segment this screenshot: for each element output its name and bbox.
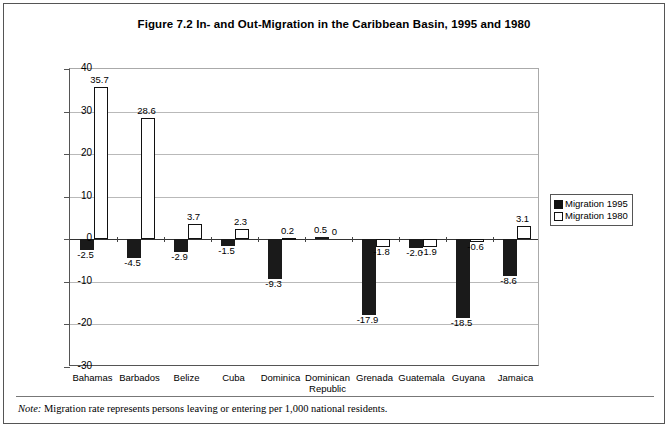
bar-dominican-republic-1995 bbox=[315, 237, 329, 239]
y-axis-label: 40 bbox=[58, 63, 92, 73]
legend-item-migration-1980: Migration 1980 bbox=[554, 210, 628, 222]
bar-value-label: -1.8 bbox=[366, 247, 398, 257]
bar-value-label: -0.6 bbox=[460, 242, 492, 252]
note-label: Note: bbox=[18, 403, 41, 414]
bar-barbados-1980 bbox=[141, 118, 155, 240]
figure-title: Figure 7.2 In- and Out-Migration in the … bbox=[4, 18, 664, 30]
x-axis-tick bbox=[446, 237, 447, 242]
figure-frame: Figure 7.2 In- and Out-Migration in the … bbox=[3, 3, 665, 424]
figure-note: Note: Migration rate represents persons … bbox=[18, 403, 387, 414]
legend-item-migration-1995: Migration 1995 bbox=[554, 198, 628, 210]
bar-value-label: -1.5 bbox=[211, 246, 243, 256]
x-axis-tick bbox=[117, 237, 118, 242]
bar-value-label: 35.7 bbox=[84, 75, 116, 85]
y-axis-label: 20 bbox=[58, 148, 92, 158]
x-axis-category-jamaica: Jamaica bbox=[486, 372, 545, 383]
bar-value-label: 0 bbox=[319, 227, 351, 237]
x-axis-tick bbox=[305, 237, 306, 242]
legend-label: Migration 1995 bbox=[565, 199, 628, 209]
y-axis-label: -10 bbox=[58, 276, 92, 286]
bar-value-label: -2.9 bbox=[164, 252, 196, 262]
bar-value-label: -2.5 bbox=[70, 250, 102, 260]
legend-label: Migration 1980 bbox=[565, 211, 628, 221]
bar-value-label: -8.6 bbox=[493, 276, 525, 286]
bar-barbados-1995 bbox=[127, 239, 141, 258]
bar-cuba-1980 bbox=[235, 229, 249, 239]
x-axis-tick bbox=[211, 237, 212, 242]
bar-value-label: -18.5 bbox=[446, 318, 478, 328]
bar-dominica-1980 bbox=[282, 238, 296, 240]
note-text: Migration rate represents persons leavin… bbox=[41, 403, 387, 414]
bar-value-label: -17.9 bbox=[352, 315, 384, 325]
bar-value-label: 3.7 bbox=[178, 212, 210, 222]
bar-belize-1995 bbox=[174, 239, 188, 251]
bar-jamaica-1995 bbox=[503, 239, 517, 276]
y-axis-label: -20 bbox=[58, 318, 92, 328]
bar-value-label: -1.9 bbox=[413, 247, 445, 257]
legend-swatch-filled-icon bbox=[554, 200, 563, 209]
bar-value-label: 3.1 bbox=[507, 214, 539, 224]
legend-swatch-hollow-icon bbox=[554, 212, 563, 221]
bar-jamaica-1980 bbox=[517, 226, 531, 239]
x-axis-tick bbox=[164, 237, 165, 242]
y-axis-label: 30 bbox=[58, 106, 92, 116]
x-axis-tick bbox=[399, 237, 400, 242]
y-axis-label: 10 bbox=[58, 191, 92, 201]
y-axis-label: 0 bbox=[58, 233, 92, 243]
chart-legend: Migration 1995 Migration 1980 bbox=[550, 194, 633, 226]
bar-bahamas-1980 bbox=[94, 87, 108, 239]
bar-value-label: -4.5 bbox=[117, 258, 149, 268]
x-axis-tick bbox=[352, 237, 353, 242]
bar-belize-1980 bbox=[188, 224, 202, 240]
x-axis-tick bbox=[258, 237, 259, 242]
y-axis-label: -30 bbox=[58, 361, 92, 371]
bar-value-label: 0.2 bbox=[272, 226, 304, 236]
bar-value-label: 28.6 bbox=[131, 106, 163, 116]
bar-value-label: -9.3 bbox=[258, 279, 290, 289]
bar-value-label: 2.3 bbox=[225, 217, 257, 227]
bar-dominica-1995 bbox=[268, 239, 282, 279]
x-axis-tick bbox=[493, 237, 494, 242]
note-divider bbox=[16, 396, 654, 397]
